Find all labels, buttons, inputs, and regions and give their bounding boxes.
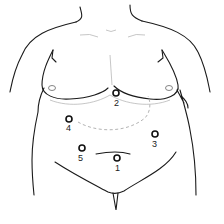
nipple-right	[166, 86, 173, 91]
flank-right	[177, 90, 196, 195]
port-2-label: 2	[114, 98, 119, 108]
port-1-marker	[114, 155, 120, 161]
sternum	[110, 55, 112, 85]
nipple-left	[49, 86, 56, 91]
neck-left	[76, 7, 82, 22]
port-5-marker	[79, 145, 85, 151]
umbilical-fold	[96, 152, 130, 154]
clavicle-right	[128, 34, 145, 37]
axilla-left	[52, 50, 56, 62]
torso-diagram: 1 2 3 4 5	[0, 0, 224, 224]
axilla-right	[158, 50, 163, 62]
flank-left	[32, 88, 44, 195]
breast-right	[114, 50, 178, 99]
clavicle-left	[80, 34, 98, 37]
port-1: 1	[114, 155, 120, 173]
port-4-label: 4	[66, 123, 71, 133]
port-3: 3	[152, 131, 158, 149]
port-5-label: 5	[78, 153, 83, 163]
port-4-marker	[66, 116, 72, 122]
pubic-cleft	[113, 193, 118, 210]
port-5: 5	[78, 145, 85, 163]
shoulder-right	[142, 21, 210, 92]
shoulder-left	[10, 22, 76, 92]
port-1-label: 1	[115, 163, 120, 173]
sternal-notch	[106, 30, 116, 32]
port-2: 2	[113, 90, 119, 108]
port-2-marker	[113, 90, 119, 96]
port-3-marker	[152, 131, 158, 137]
neck-right	[130, 5, 142, 21]
port-3-label: 3	[152, 139, 157, 149]
port-4: 4	[66, 116, 72, 133]
